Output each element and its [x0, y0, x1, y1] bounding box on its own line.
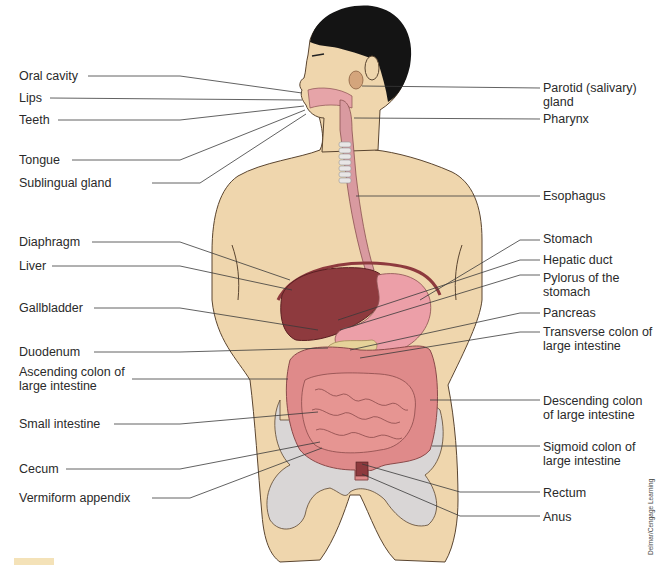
small-intestine	[302, 373, 416, 453]
caption-swatch	[14, 558, 54, 565]
label-cecum: Cecum	[19, 462, 59, 476]
label-stomach: Stomach	[543, 232, 592, 246]
label-lips: Lips	[19, 91, 42, 105]
digestive-system-diagram: Oral cavity Lips Teeth Tongue Sublingual…	[0, 0, 664, 565]
label-rectum: Rectum	[543, 486, 586, 500]
image-credit: Delmar/Cengage Learning	[647, 479, 654, 555]
label-vermiform-appendix: Vermiform appendix	[19, 491, 130, 505]
label-descending-colon: Descending colon of large intestine	[543, 394, 643, 422]
label-transverse-colon: Transverse colon of large intestine	[543, 325, 658, 353]
label-duodenum: Duodenum	[19, 345, 80, 359]
label-parotid-gland: Parotid (salivary) gland	[543, 81, 655, 109]
label-teeth: Teeth	[19, 113, 50, 127]
label-oral-cavity: Oral cavity	[19, 69, 78, 83]
label-tongue: Tongue	[19, 153, 60, 167]
label-diaphragm: Diaphragm	[19, 235, 80, 249]
label-anus: Anus	[543, 510, 572, 524]
label-pharynx: Pharynx	[543, 112, 589, 126]
label-liver: Liver	[19, 259, 46, 273]
label-pylorus: Pylorus of the stomach	[543, 271, 643, 299]
label-esophagus: Esophagus	[543, 189, 606, 203]
trachea	[339, 142, 351, 183]
label-sublingual-gland: Sublingual gland	[19, 176, 111, 190]
label-hepatic-duct: Hepatic duct	[543, 253, 612, 267]
label-sigmoid-colon: Sigmoid colon of large intestine	[543, 440, 648, 468]
label-pancreas: Pancreas	[543, 306, 596, 320]
label-gallbladder: Gallbladder	[19, 301, 83, 315]
label-ascending-colon: Ascending colon of large intestine	[19, 365, 139, 393]
label-small-intestine: Small intestine	[19, 417, 100, 431]
